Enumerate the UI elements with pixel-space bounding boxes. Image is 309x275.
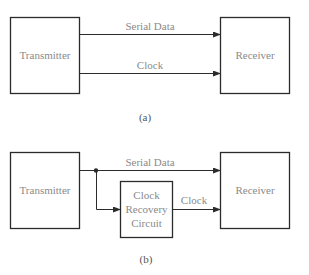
receiver-label-a: Receiver xyxy=(235,49,274,61)
diagram-a: Transmitter Receiver Serial Data Clock (… xyxy=(11,18,290,125)
transmitter-label-a: Transmitter xyxy=(20,49,71,61)
diagram-canvas: Transmitter Receiver Serial Data Clock (… xyxy=(0,0,309,275)
clock-recovery-line3: Circuit xyxy=(131,217,162,229)
caption-b: (b) xyxy=(140,253,153,266)
tap-to-clock-recovery-arrow xyxy=(97,171,121,210)
clock-label-b: Clock xyxy=(181,194,208,206)
clock-recovery-line2: Recovery xyxy=(125,203,168,215)
clock-recovery-line1: Clock xyxy=(133,189,160,201)
clock-label-a: Clock xyxy=(137,59,164,71)
caption-a: (a) xyxy=(139,111,152,124)
transmitter-label-b: Transmitter xyxy=(20,184,71,196)
diagram-b: Transmitter Receiver Clock Recovery Circ… xyxy=(11,153,290,267)
serial-data-label-a: Serial Data xyxy=(125,20,174,32)
receiver-label-b: Receiver xyxy=(235,184,274,196)
serial-data-label-b: Serial Data xyxy=(125,156,174,168)
